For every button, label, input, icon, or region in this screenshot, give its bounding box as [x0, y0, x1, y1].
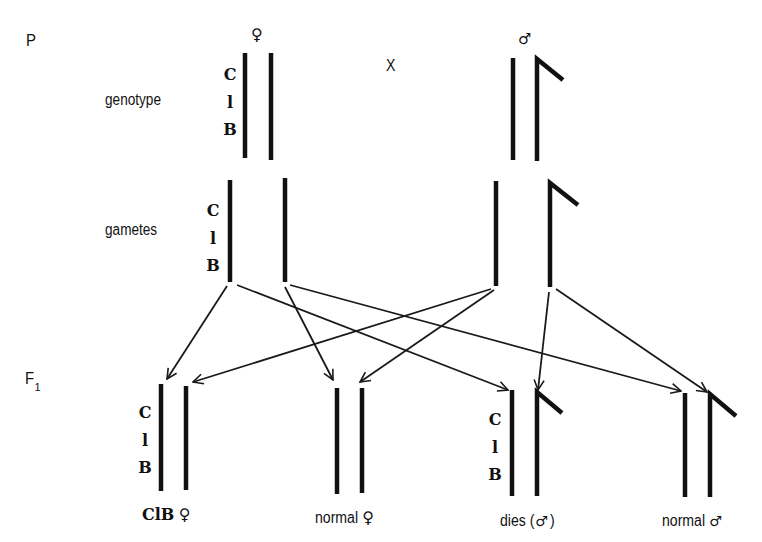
gene-label-c: C [487, 412, 503, 428]
offspring-label-clb-female: ClB ♀ [142, 507, 191, 523]
offspring-label-normal-text: normal [315, 510, 358, 526]
diagram-graphics [0, 0, 762, 542]
offspring-normal-male-chromosomes [685, 393, 736, 497]
gene-label-c: C [137, 405, 153, 421]
offspring-label-clb-text: ClB [142, 505, 174, 524]
gene-label-l: l [137, 433, 153, 449]
arrow-male-x-to-clb-female [193, 289, 491, 382]
offspring-normal-male-y [710, 394, 736, 497]
offspring-label-normal-male: normal ♂ [662, 513, 722, 529]
male-symbol-icon: ♂ [535, 513, 548, 529]
gene-label-l: l [205, 231, 221, 247]
offspring-clb-female-chromosomes [161, 384, 186, 491]
gamete-male-y-chromosome [550, 183, 578, 287]
parent-male-chromosomes [513, 58, 563, 161]
gene-label-l: l [222, 95, 238, 111]
offspring-label-dies-male: dies (♂) [500, 513, 555, 529]
offspring-label-dies-text: dies ( [500, 513, 534, 529]
gene-label-b: B [137, 460, 153, 476]
arrow-female-clb-to-clb-female [167, 286, 227, 379]
arrow-female-normal-to-normal-female [285, 287, 333, 380]
cross-symbol: X [386, 58, 395, 74]
gene-label-c: C [205, 203, 221, 219]
offspring-normal-female-chromosomes [337, 388, 362, 494]
gene-label-b: B [205, 258, 221, 274]
female-symbol-icon: ♀ [251, 27, 263, 43]
clb-cross-diagram: P F1 genotype gametes X ♀ ♂ C l B C l B … [0, 0, 762, 542]
generation-label-f1-subscript: 1 [34, 381, 40, 393]
row-label-genotype: genotype [105, 92, 161, 108]
male-symbol-icon: ♂ [518, 32, 531, 47]
row-label-gametes: gametes [105, 222, 157, 238]
gene-label-c: C [222, 67, 238, 83]
arrow-female-normal-to-normal-male [290, 285, 681, 391]
offspring-dies-male-y [537, 392, 562, 496]
offspring-label-normal-text: normal [662, 513, 705, 529]
arrow-male-y-to-dies-male [538, 292, 549, 390]
gene-label-l: l [487, 440, 503, 456]
offspring-dies-male-chromosomes [512, 390, 562, 496]
gene-label-b: B [487, 467, 503, 483]
offspring-label-dies-suffix: ) [550, 513, 555, 529]
gamete-chromosomes [230, 178, 578, 287]
parent-female-chromosomes [245, 53, 271, 160]
female-symbol-icon: ♀ [362, 508, 374, 527]
arrow-male-x-to-normal-female [360, 290, 494, 382]
offspring-label-normal-female: normal ♀ [315, 510, 374, 526]
generation-label-f1: F1 [25, 370, 42, 387]
generation-label-f1-letter: F [25, 370, 34, 387]
parent-male-y-chromosome [537, 59, 563, 161]
female-symbol-icon: ♀ [179, 505, 191, 524]
generation-label-p: P [26, 32, 36, 49]
arrow-male-y-to-normal-male [556, 289, 707, 392]
gene-label-b: B [222, 122, 238, 138]
gamete-arrows [167, 285, 707, 392]
male-symbol-icon: ♂ [709, 513, 722, 529]
